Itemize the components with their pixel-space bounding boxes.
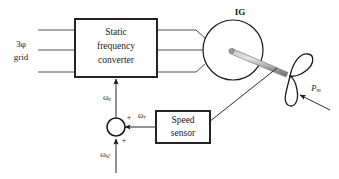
machine-label: IG — [235, 7, 246, 17]
converter-to-machine-lines — [157, 30, 205, 72]
omega-sl-subscript: sl — [106, 154, 110, 160]
converter-label-line2: frequency — [97, 41, 135, 51]
grid-label-line1: 3φ — [16, 39, 26, 49]
sum-sign-bottom: + — [122, 136, 127, 145]
summing-junction[interactable] — [107, 118, 125, 136]
blade-upper-lobe — [290, 54, 313, 76]
omega-r-label: ωr — [138, 110, 147, 121]
grid-label-line2: grid — [14, 52, 29, 62]
sum-sign-top: + — [127, 113, 132, 122]
omega-e-subscript: e — [109, 97, 112, 103]
omega-sl-label: ωsl — [100, 149, 110, 160]
mechanical-power-label: Pm — [310, 83, 320, 94]
sensor-label-line1: Speed — [171, 115, 194, 125]
turbine-blade — [285, 54, 313, 106]
omega-r-subscript: r — [144, 115, 147, 121]
diagram-canvas: 3φ grid Static frequency converter IG P — [0, 0, 339, 179]
mechanical-power-arrow — [300, 95, 330, 110]
block-diagram-figure: 3φ grid Static frequency converter IG P — [0, 0, 339, 179]
grid-input-lines — [38, 30, 75, 72]
output-line-1 — [157, 30, 205, 38]
blade-lower-lobe — [285, 76, 297, 106]
converter-label-line3: converter — [98, 55, 135, 65]
omega-e-label: ωe — [103, 92, 112, 103]
output-line-3 — [157, 64, 205, 72]
sensor-label-line2: sensor — [171, 128, 196, 138]
power-subscript: m — [317, 88, 321, 94]
converter-label-line1: Static — [105, 27, 127, 37]
shaft-hub — [229, 48, 234, 53]
